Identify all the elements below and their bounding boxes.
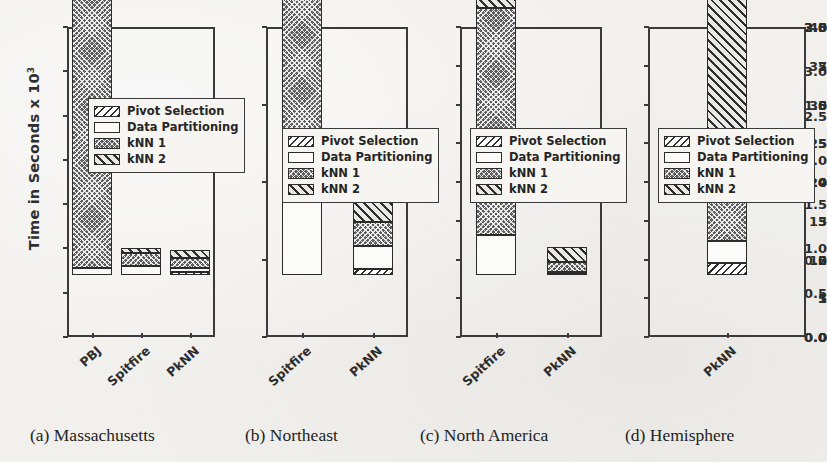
- x-tick-label-b-spitfire: Spitfire: [257, 343, 313, 396]
- figure-root: Time in Seconds x 103 0.00.51.01.52.02.5…: [0, 0, 827, 462]
- y-tick-mark-c-3: [456, 220, 461, 222]
- legend-label: Pivot Selection: [509, 136, 606, 147]
- y-tick-mark-a-3: [63, 203, 68, 205]
- legend-item-data-partitioning[interactable]: Data Partitioning: [476, 150, 620, 165]
- bar-segment-data-partitioning: [476, 235, 516, 275]
- y-tick-label-d-7: 7: [786, 58, 827, 73]
- y-tick-mark-a-0: [63, 336, 68, 338]
- legend-label: kNN 1: [697, 168, 736, 179]
- legend-swatch-icon-3: [664, 184, 690, 195]
- bar-segment-data-partitioning: [547, 272, 587, 274]
- legend-swatch-icon-3: [476, 184, 502, 195]
- legend-swatch-icon-1: [94, 122, 120, 133]
- x-tick-label-d-pknn: PkNN: [683, 343, 739, 396]
- y-tick-mark-a-7: [63, 26, 68, 28]
- y-tick-mark-a-1: [63, 292, 68, 294]
- y-tick-label-d-8: 8: [786, 20, 827, 35]
- legend-label: Pivot Selection: [321, 136, 418, 147]
- x-tick-mark-a-2: [190, 333, 192, 338]
- bar-segment-knn-2: [547, 247, 587, 262]
- legend-item-data-partitioning[interactable]: Data Partitioning: [664, 150, 808, 165]
- x-tick-label-a-spitfire: Spitfire: [97, 343, 153, 396]
- bar-segment-pivot-selection: [353, 269, 393, 275]
- legend-label: kNN 2: [509, 184, 548, 195]
- legend-swatch-icon-1: [476, 152, 502, 163]
- y-tick-mark-c-2: [456, 259, 461, 261]
- y-tick-mark-d-0: [644, 336, 649, 338]
- bar-segment-knn-1: [121, 253, 161, 266]
- y-tick-mark-b-0: [262, 336, 267, 338]
- legend-swatch-icon-1: [288, 152, 314, 163]
- y-tick-label-d-6: 6: [786, 97, 827, 112]
- legend-item-knn-2[interactable]: kNN 2: [664, 182, 808, 197]
- y-tick-mark-c-6: [456, 104, 461, 106]
- y-tick-label-d-0: 0: [786, 330, 827, 345]
- bar-segment-data-partitioning: [282, 196, 322, 275]
- legend-d: Pivot SelectionData PartitioningkNN 1kNN…: [658, 128, 815, 203]
- y-tick-mark-b-1: [262, 259, 267, 261]
- legend-item-knn-2[interactable]: kNN 2: [476, 182, 620, 197]
- x-tick-mark-b-1: [373, 333, 375, 338]
- x-tick-mark-b-0: [302, 333, 304, 338]
- legend-swatch-icon-0: [476, 136, 502, 147]
- legend-item-pivot-selection[interactable]: Pivot Selection: [664, 134, 808, 149]
- legend-swatch-icon-0: [288, 136, 314, 147]
- y-tick-mark-d-4: [644, 181, 649, 183]
- bar-segment-knn-1: [547, 262, 587, 272]
- caption-d: (d) Hemisphere: [625, 425, 734, 446]
- bar-segment-data-partitioning: [170, 268, 210, 272]
- y-tick-mark-d-6: [644, 104, 649, 106]
- y-tick-mark-c-1: [456, 297, 461, 299]
- y-tick-label-d-2: 2: [786, 252, 827, 267]
- legend-label: kNN 2: [321, 184, 360, 195]
- y-tick-mark-c-0: [456, 336, 461, 338]
- x-tick-mark-a-0: [92, 333, 94, 338]
- x-tick-mark-c-1: [567, 333, 569, 338]
- x-tick-label-a-pknn: PkNN: [146, 343, 202, 396]
- bar-segment-pivot-selection: [707, 263, 747, 275]
- legend-swatch-icon-2: [476, 168, 502, 179]
- legend-swatch-icon-3: [288, 184, 314, 195]
- legend-swatch-icon-3: [94, 154, 120, 165]
- legend-swatch-icon-0: [94, 106, 120, 117]
- x-tick-label-c-pknn: PkNN: [522, 343, 578, 396]
- x-tick-mark-a-1: [141, 333, 143, 338]
- legend-label: kNN 1: [509, 168, 548, 179]
- y-tick-label-d-1: 1: [786, 291, 827, 306]
- y-tick-mark-c-8: [456, 26, 461, 28]
- y-tick-label-d-3: 3: [786, 213, 827, 228]
- x-tick-mark-c-0: [496, 333, 498, 338]
- legend-item-knn-1[interactable]: kNN 1: [664, 166, 808, 181]
- y-tick-mark-d-7: [644, 65, 649, 67]
- legend-item-knn-1[interactable]: kNN 1: [476, 166, 620, 181]
- subplot-d-hemisphere: 012345678PkNNPivot SelectionData Partiti…: [600, 0, 827, 400]
- y-tick-mark-a-2: [63, 247, 68, 249]
- x-tick-mark-d-0: [727, 333, 729, 338]
- bar-segment-pivot-selection: [170, 272, 210, 275]
- caption-c: (c) North America: [420, 425, 548, 446]
- y-tick-mark-d-3: [644, 220, 649, 222]
- legend-swatch-icon-2: [288, 168, 314, 179]
- y-tick-mark-b-2: [262, 181, 267, 183]
- y-tick-mark-d-2: [644, 259, 649, 261]
- caption-b: (b) Northeast: [245, 425, 338, 446]
- bar-segment-data-partitioning: [707, 241, 747, 263]
- bar-segment-knn-2: [121, 248, 161, 253]
- bar-segment-data-partitioning: [72, 268, 112, 275]
- legend-label: kNN 1: [321, 168, 360, 179]
- y-tick-mark-a-5: [63, 115, 68, 117]
- legend-swatch-icon-0: [664, 136, 690, 147]
- y-tick-mark-b-3: [262, 104, 267, 106]
- y-tick-mark-c-7: [456, 65, 461, 67]
- y-tick-mark-d-8: [644, 26, 649, 28]
- x-tick-label-b-pknn: PkNN: [328, 343, 384, 396]
- legend-swatch-icon-2: [94, 138, 120, 149]
- legend-label: Data Partitioning: [697, 152, 808, 163]
- x-tick-label-a-pbj: PBJ: [48, 343, 104, 396]
- bar-segment-knn-2: [170, 250, 210, 258]
- bar-segment-data-partitioning: [353, 246, 393, 269]
- legend-item-pivot-selection[interactable]: Pivot Selection: [476, 134, 620, 149]
- legend-swatch-icon-1: [664, 152, 690, 163]
- y-tick-mark-b-4: [262, 26, 267, 28]
- y-tick-mark-c-4: [456, 181, 461, 183]
